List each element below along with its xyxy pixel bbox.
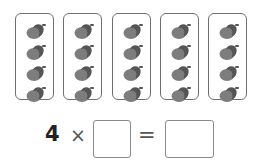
acorn-icon xyxy=(73,85,95,103)
acorn-group-2 xyxy=(63,13,102,100)
acorn-icon xyxy=(73,64,95,82)
acorn-icon xyxy=(218,43,240,61)
acorn-icon xyxy=(170,22,192,40)
times-sign: × xyxy=(70,126,86,145)
acorn-group-4 xyxy=(160,13,199,100)
acorn-icon xyxy=(122,64,144,82)
acorn-icon xyxy=(122,43,144,61)
acorn-icon xyxy=(122,22,144,40)
acorn-icon xyxy=(218,22,240,40)
known-factor: 4 xyxy=(45,124,60,145)
missing-factor-box[interactable] xyxy=(93,120,131,158)
product-answer-box[interactable] xyxy=(165,120,214,158)
equals-sign: = xyxy=(138,125,156,146)
acorn-icon xyxy=(25,43,47,61)
acorn-icon xyxy=(25,64,47,82)
acorn-group-3 xyxy=(112,13,151,100)
acorn-icon xyxy=(73,22,95,40)
acorn-icon xyxy=(25,22,47,40)
acorn-group-1 xyxy=(15,13,54,100)
acorn-icon xyxy=(170,85,192,103)
acorn-icon xyxy=(25,85,47,103)
acorn-icon xyxy=(170,43,192,61)
acorn-icon xyxy=(218,85,240,103)
acorn-icon xyxy=(73,43,95,61)
acorn-icon xyxy=(170,64,192,82)
acorn-group-5 xyxy=(208,13,247,100)
acorn-icon xyxy=(218,64,240,82)
acorn-icon xyxy=(122,85,144,103)
